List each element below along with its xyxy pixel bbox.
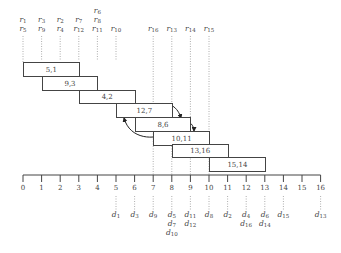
axis-tick-label: 9: [188, 184, 192, 192]
axis-tick-label: 14: [279, 184, 288, 192]
release-time-label: r2r4: [57, 16, 64, 34]
interval-box-label: 5,1: [46, 66, 57, 74]
axis-tick-label: 7: [151, 184, 155, 192]
axis-tick-label: 2: [58, 184, 62, 192]
interval-box-label: 4,2: [102, 93, 113, 101]
interval-box: 8,6: [135, 117, 192, 132]
release-time-label: r6r8r11: [92, 7, 103, 34]
deadline-label: d1: [112, 211, 120, 220]
axis-tick-label: 6: [132, 184, 136, 192]
axis-tick-label: 12: [242, 184, 251, 192]
interval-box-label: 12,7: [137, 107, 153, 115]
interval-box: 12,7: [116, 103, 173, 118]
interval-box-label: 13,16: [190, 147, 210, 155]
release-time-label: r14: [185, 25, 196, 34]
axis-tick-label: 11: [223, 184, 232, 192]
deadline-label: d4d16: [240, 211, 252, 229]
axis-tick-label: 3: [77, 184, 81, 192]
deadline-label: d9: [149, 211, 157, 220]
release-time-label: r16: [148, 25, 159, 34]
axis-tick-label: 8: [170, 184, 174, 192]
deadline-label: d8: [205, 211, 213, 220]
interval-box: 13,16: [172, 144, 229, 158]
interval-box-label: 10,11: [172, 135, 192, 143]
axis-tick-label: 15: [298, 184, 307, 192]
deadline-label: d11d12: [184, 211, 196, 229]
deadline-label: d2: [223, 211, 231, 220]
release-time-label: r1r5: [19, 16, 26, 34]
axis-tick-label: 0: [21, 184, 25, 192]
interval-box-label: 15,14: [227, 161, 247, 169]
interval-box: 4,2: [79, 90, 136, 104]
interval-box: 5,1: [23, 62, 80, 77]
axis-tick-label: 16: [316, 184, 325, 192]
release-time-label: r13: [167, 25, 178, 34]
deadline-label: d13: [315, 211, 327, 220]
axis-tick-label: 13: [260, 184, 269, 192]
deadline-label: d6d14: [259, 211, 271, 229]
release-time-label: r7r12: [74, 16, 85, 34]
release-time-label: r15: [204, 25, 215, 34]
axis-tick-label: 5: [114, 184, 118, 192]
release-time-label: r10: [111, 25, 122, 34]
deadline-label: d15: [277, 211, 289, 220]
deadline-label: d3: [130, 211, 138, 220]
interval-box: 15,14: [209, 157, 266, 172]
interval-box-label: 8,6: [157, 121, 168, 129]
interval-box-label: 9,3: [64, 80, 75, 88]
interval-box: 9,3: [42, 76, 99, 91]
axis-tick-label: 4: [95, 184, 99, 192]
release-time-label: r3r9: [38, 16, 45, 34]
axis-tick-label: 1: [39, 184, 43, 192]
deadline-label: d5d7d10: [166, 211, 178, 238]
axis-tick-label: 10: [205, 184, 214, 192]
